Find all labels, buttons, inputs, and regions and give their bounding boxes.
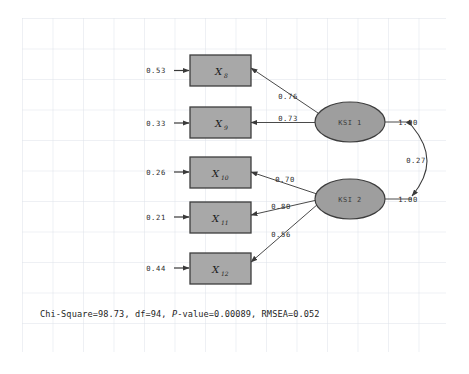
sem-path-diagram: 0.53 0.33 0.26 0.21 0.44 0.76 0.73 0.70 … xyxy=(0,0,469,374)
indicator-label-x11: X xyxy=(211,213,220,224)
covariance-value: 0.27 xyxy=(406,156,426,165)
indicator-label-x10: X xyxy=(211,168,220,179)
p-label-rest: -value= xyxy=(177,309,214,319)
variance-value-ksi2: 1.00 xyxy=(398,195,418,204)
indicator-subscript-x12: 12 xyxy=(221,270,229,277)
caption-line: Chi-Square=98.73, df=94, P-value=0.00089… xyxy=(40,309,320,319)
df-value: 94 xyxy=(151,309,162,319)
latent-ellipse-ksi1[interactable]: KSI 1 xyxy=(315,102,385,142)
fit-statistics-caption: Chi-Square=98.73, df=94, P-value=0.00089… xyxy=(40,309,320,319)
chi-square-label: Chi-Square= xyxy=(40,309,98,319)
df-label: df= xyxy=(135,309,151,319)
error-value-x11: 0.21 xyxy=(146,213,166,222)
error-value-x10: 0.26 xyxy=(146,168,166,177)
latent-label-ksi2: KSI 2 xyxy=(338,196,362,204)
caption-sep-3: , xyxy=(251,309,262,319)
indicator-label-x9: X xyxy=(214,118,223,129)
variance-value-ksi1: 1.00 xyxy=(398,118,418,127)
indicator-box-x8[interactable]: X 8 xyxy=(190,55,251,86)
indicator-subscript-x9: 9 xyxy=(224,124,228,131)
indicator-box-x11[interactable]: X 11 xyxy=(190,202,251,233)
error-value-x12: 0.44 xyxy=(146,264,166,273)
loading-value-ksi1-x8: 0.76 xyxy=(278,92,298,101)
indicator-box-x10[interactable]: X 10 xyxy=(190,157,251,188)
chi-square-value: 98.73 xyxy=(98,309,124,319)
sem-diagram-canvas: 0.53 0.33 0.26 0.21 0.44 0.76 0.73 0.70 … xyxy=(0,0,469,374)
rmsea-value: 0.052 xyxy=(293,309,319,319)
loading-value-ksi1-x9: 0.73 xyxy=(278,114,298,123)
indicator-subscript-x10: 10 xyxy=(221,174,229,181)
indicator-box-x12[interactable]: X 12 xyxy=(190,253,251,284)
latent-label-ksi1: KSI 1 xyxy=(338,119,362,127)
caption-sep-1: , xyxy=(124,309,135,319)
loading-value-ksi2-x12: 0.56 xyxy=(271,230,291,239)
indicator-box-x9[interactable]: X 9 xyxy=(190,107,251,138)
error-value-x8: 0.53 xyxy=(146,66,166,75)
indicator-label-x12: X xyxy=(211,264,220,275)
p-value: 0.00089 xyxy=(214,309,251,319)
loading-path-ksi1-x8 xyxy=(251,68,318,113)
indicator-subscript-x11: 11 xyxy=(221,219,229,226)
loading-value-ksi2-x10: 0.70 xyxy=(275,175,295,184)
rmsea-label: RMSEA= xyxy=(262,309,294,319)
caption-sep-2: , xyxy=(161,309,172,319)
error-value-x9: 0.33 xyxy=(146,119,166,128)
indicator-subscript-x8: 8 xyxy=(224,72,228,79)
latent-ellipse-ksi2[interactable]: KSI 2 xyxy=(315,179,385,219)
indicator-label-x8: X xyxy=(214,66,223,77)
loading-value-ksi2-x11: 0.80 xyxy=(271,202,291,211)
